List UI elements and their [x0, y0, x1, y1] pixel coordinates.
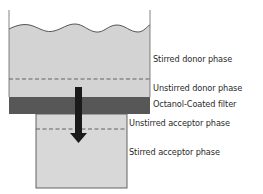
label-unstirred-acceptor-phase: Unstirred acceptor phase	[129, 118, 230, 128]
label-stirred-acceptor-phase: Stirred acceptor phase	[129, 147, 220, 157]
donor-liquid	[9, 24, 150, 97]
diagram-canvas	[0, 0, 263, 194]
label-stirred-donor-phase: Stirred donor phase	[153, 54, 232, 64]
label-unstirred-donor-phase: Unstirred donor phase	[153, 83, 242, 93]
donor-compartment	[9, 10, 150, 97]
label-octanol-coated-filter: Octanol-Coated filter	[153, 99, 236, 109]
